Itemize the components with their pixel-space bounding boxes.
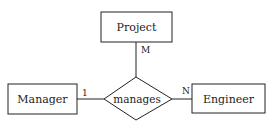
entity-manager-label: Manager <box>17 93 68 106</box>
relationship-manages: manages <box>104 77 172 120</box>
entity-project: Project <box>101 12 172 42</box>
relationship-label: manages <box>113 93 161 105</box>
entity-engineer: Engineer <box>192 84 265 113</box>
cardinality-manager: 1 <box>82 88 88 98</box>
entity-manager: Manager <box>8 84 77 114</box>
cardinality-project: M <box>141 45 150 55</box>
er-diagram: Project Manager Engineer manages M 1 N <box>0 0 270 126</box>
entity-project-label: Project <box>117 21 157 34</box>
cardinality-engineer: N <box>182 86 190 96</box>
entity-engineer-label: Engineer <box>203 93 255 106</box>
